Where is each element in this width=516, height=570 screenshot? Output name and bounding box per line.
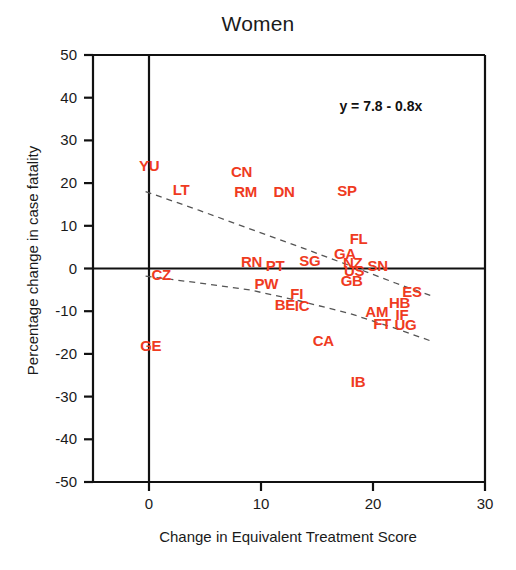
x-tick-label: 20: [353, 496, 393, 511]
data-point-label-rn: RN: [241, 254, 262, 269]
y-tick-label: 30: [35, 132, 77, 147]
data-point-label-sn: SN: [368, 258, 388, 273]
data-point-label-ft: FT: [373, 316, 391, 331]
data-point-label-cz: CZ: [151, 267, 170, 282]
x-tick-label: 30: [465, 496, 505, 511]
y-tick-label: -20: [35, 346, 77, 361]
data-point-label-lt: LT: [173, 182, 190, 197]
data-point-label-pw: PW: [254, 276, 278, 291]
data-point-label-ug: UG: [394, 317, 416, 332]
axis-ticks: [84, 55, 485, 491]
data-point-label-yu: YU: [139, 158, 159, 173]
y-tick-label: 50: [35, 47, 77, 62]
x-tick-label: 10: [241, 496, 281, 511]
y-tick-label: -30: [35, 389, 77, 404]
upper-confidence-band: [146, 192, 432, 296]
data-point-label-cn: CN: [231, 164, 252, 179]
y-tick-label: 0: [35, 261, 77, 276]
data-point-label-ib: IB: [351, 374, 365, 389]
data-point-label-sp: SP: [337, 183, 356, 198]
chart-figure: Women Percentage change in case fatality…: [0, 0, 516, 570]
data-point-label-ic: IC: [295, 298, 309, 313]
regression-equation-annotation: y = 7.8 - 0.8x: [339, 98, 422, 114]
y-tick-label: -50: [35, 474, 77, 489]
y-tick-label: 20: [35, 175, 77, 190]
x-tick-label: 0: [129, 496, 169, 511]
y-tick-label: 10: [35, 218, 77, 233]
y-tick-label: 40: [35, 90, 77, 105]
data-point-label-sg: SG: [299, 253, 320, 268]
data-point-label-rm: RM: [234, 184, 257, 199]
data-point-label-ca: CA: [313, 333, 334, 348]
data-point-label-ge: GE: [140, 338, 161, 353]
data-point-label-fl: FL: [350, 231, 368, 246]
data-point-label-pt: PT: [266, 258, 285, 273]
data-point-label-dn: DN: [274, 184, 295, 199]
y-tick-label: -40: [35, 431, 77, 446]
data-point-label-be: BE: [275, 297, 295, 312]
data-point-label-gb: GB: [341, 273, 363, 288]
y-tick-label: -10: [35, 303, 77, 318]
